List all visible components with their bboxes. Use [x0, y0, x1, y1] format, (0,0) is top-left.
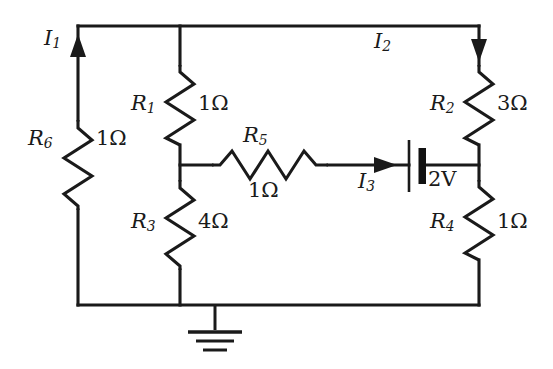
resistor-label-r2-sub: 2	[446, 100, 455, 116]
resistor-r3-symbol	[166, 180, 194, 270]
resistor-r5-symbol	[212, 151, 328, 179]
resistor-label-r4-sub: 4	[446, 218, 455, 234]
battery-value-label: 2V	[428, 169, 457, 190]
resistor-value-r4: 1Ω	[497, 211, 528, 232]
resistor-value-r3: 4Ω	[198, 211, 229, 232]
resistor-value-r2: 3Ω	[497, 93, 528, 114]
resistor-label-r1-name: R	[131, 91, 147, 115]
resistor-label-r5-sub: 5	[259, 132, 268, 148]
resistor-r2-symbol	[465, 65, 493, 145]
resistor-value-r1: 1Ω	[198, 93, 229, 114]
resistor-label-r5: R5	[243, 125, 268, 148]
current-arrow-i2	[471, 39, 487, 62]
resistor-label-r5-name: R	[243, 123, 259, 147]
resistor-label-r1-sub: 1	[147, 100, 156, 116]
battery-short-plate	[419, 148, 427, 184]
resistor-label-r6-name: R	[28, 126, 44, 150]
resistor-value-r5: 1Ω	[248, 180, 279, 201]
resistor-r4-symbol	[465, 180, 493, 260]
current-arrow-i1	[70, 34, 86, 57]
resistor-label-r2: R2	[430, 93, 455, 116]
current-arrow-i3	[374, 157, 397, 173]
resistor-label-r6-sub: 6	[44, 135, 53, 151]
resistor-r6-symbol	[64, 120, 92, 210]
resistor-label-r6: R6	[28, 128, 53, 151]
current-label-i2: I2	[374, 31, 391, 54]
current-label-i2-sub: 2	[382, 38, 391, 54]
resistor-label-r3: R3	[131, 211, 156, 234]
circuit-diagram: I1 I2 I3 R1 1Ω R2 3Ω R3 4Ω R4 1Ω R5 1Ω R…	[0, 0, 553, 369]
resistor-label-r4: R4	[430, 211, 455, 234]
resistor-label-r3-sub: 3	[147, 218, 156, 234]
resistor-label-r1: R1	[131, 93, 156, 116]
current-label-i1: I1	[44, 28, 61, 51]
current-label-i3-sub: 3	[366, 178, 375, 194]
resistor-label-r4-name: R	[430, 209, 446, 233]
resistor-label-r3-name: R	[131, 209, 147, 233]
resistor-label-r2-name: R	[430, 91, 446, 115]
current-label-i3: I3	[358, 171, 375, 194]
resistor-value-r6: 1Ω	[96, 128, 127, 149]
resistor-r1-symbol	[166, 65, 194, 145]
current-label-i1-sub: 1	[52, 35, 61, 51]
